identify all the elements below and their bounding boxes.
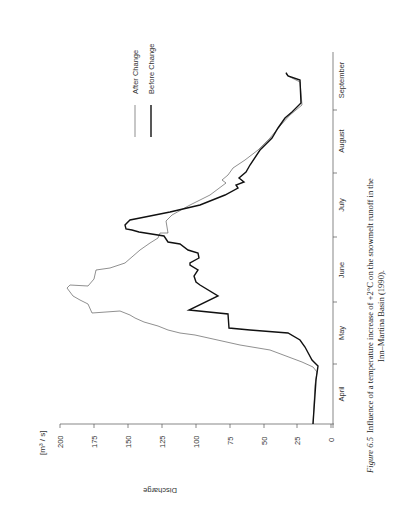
- legend-label-after: After Change: [131, 50, 140, 94]
- tick-label: 175: [90, 435, 99, 448]
- tick-label: 100: [192, 435, 201, 448]
- month-label-july: July: [337, 198, 346, 212]
- figure-caption: Figure 6.5Influence of a temperature inc…: [365, 178, 386, 474]
- tick-label: 25: [293, 437, 302, 445]
- month-label-september: September: [337, 61, 346, 98]
- time-axis: April May June July August September: [333, 52, 346, 428]
- month-label-april: April: [337, 386, 346, 401]
- tick-label: 75: [226, 437, 235, 445]
- figure-label: Figure 6.5: [365, 436, 375, 474]
- month-label-may: May: [337, 326, 346, 340]
- legend: After Change Before Change: [131, 44, 156, 137]
- tick-label: 200: [56, 435, 65, 448]
- caption-line1: Influence of a temperature increase of +…: [365, 178, 375, 433]
- tick-label: 0: [327, 438, 336, 442]
- caption-line2: Inn–Martina Basin (1990).: [376, 270, 386, 362]
- svg-text:Figure 6.5Influence of a tempe: Figure 6.5Influence of a temperature inc…: [365, 178, 375, 474]
- axis-title: Discharge: [143, 486, 177, 495]
- unit-label: [m³ / s]: [38, 431, 47, 455]
- month-label-august: August: [337, 128, 346, 152]
- tick-label: 150: [124, 435, 133, 448]
- chart: 200 175 150 125 100 75 50 25 0 [m³ / s] …: [0, 0, 405, 505]
- month-label-june: June: [337, 262, 346, 278]
- series-before-change: [125, 73, 318, 424]
- value-axis: 200 175 150 125 100 75 50 25 0 [m³ / s] …: [38, 424, 336, 495]
- legend-label-before: Before Change: [147, 44, 156, 94]
- tick-label: 50: [260, 437, 269, 445]
- tick-label: 125: [158, 435, 167, 448]
